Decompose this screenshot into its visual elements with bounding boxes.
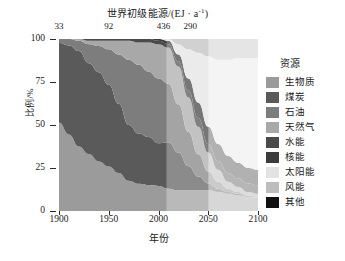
x-tick-mark (258, 211, 259, 215)
top-annotation-value: 92 (89, 21, 129, 31)
legend-item[interactable]: 煤炭 (266, 90, 342, 105)
legend-item-label: 风能 (285, 182, 305, 193)
scenario-shade (166, 39, 208, 211)
y-tick-label: 50 (11, 119, 45, 129)
legend-swatch (266, 92, 279, 103)
legend-item[interactable]: 石油 (266, 105, 342, 120)
x-tick-label: 2100 (238, 214, 278, 224)
legend-item-label: 煤炭 (285, 92, 305, 103)
x-tick-label: 2050 (188, 214, 228, 224)
legend-swatch (266, 152, 279, 163)
figure: 世界初级能源/(EJ · a-1) 3392436290 比例/% 025507… (0, 0, 345, 261)
legend-item[interactable]: 核能 (266, 150, 342, 165)
legend-item[interactable]: 生物质 (266, 75, 342, 90)
y-tick-mark (50, 211, 56, 212)
legend-swatch (266, 167, 279, 178)
legend-swatch (266, 137, 279, 148)
y-tick-mark (50, 125, 56, 126)
legend-swatch (266, 182, 279, 193)
x-tick-mark (159, 211, 160, 215)
legend-item-label: 核能 (285, 152, 305, 163)
y-tick-label: 100 (11, 33, 45, 43)
stacked-area-svg (59, 39, 258, 211)
x-tick-label: 2000 (139, 214, 179, 224)
x-tick-mark (208, 211, 209, 215)
legend-item[interactable]: 其他 (266, 195, 342, 210)
y-tick-label: 75 (11, 76, 45, 86)
top-annotation-value: 290 (170, 21, 210, 31)
x-tick-mark (109, 211, 110, 215)
legend-item-label: 石油 (285, 107, 305, 118)
top-axis-title: 世界初级能源/(EJ · a-1) (55, 5, 260, 20)
legend-item-label: 其他 (285, 197, 305, 208)
y-tick-label: 25 (11, 162, 45, 172)
legend-swatch (266, 107, 279, 118)
scenario-shade (208, 39, 258, 211)
legend-item[interactable]: 天然气 (266, 120, 342, 135)
legend-swatch (266, 77, 279, 88)
y-tick-mark (50, 39, 56, 40)
legend-item[interactable]: 水能 (266, 135, 342, 150)
legend-items: 生物质煤炭石油天然气水能核能太阳能风能其他 (266, 75, 342, 210)
legend-swatch (266, 122, 279, 133)
x-tick-mark (59, 211, 60, 215)
legend-item-label: 水能 (285, 137, 305, 148)
x-tick-label: 1950 (89, 214, 129, 224)
legend-swatch (266, 197, 279, 208)
legend-item-label: 天然气 (285, 122, 315, 133)
legend: 资源 生物质煤炭石油天然气水能核能太阳能风能其他 (266, 55, 342, 210)
legend-item[interactable]: 太阳能 (266, 165, 342, 180)
legend-item[interactable]: 风能 (266, 180, 342, 195)
top-axis-title-text: 世界初级能源/(EJ · a-1) (107, 8, 208, 19)
x-axis-label: 年份 (59, 230, 258, 245)
plot-area (59, 39, 258, 211)
top-annotation-value: 33 (39, 21, 79, 31)
y-tick-mark (50, 168, 56, 169)
x-tick-label: 1900 (39, 214, 79, 224)
y-tick-mark (50, 82, 56, 83)
legend-item-label: 太阳能 (285, 167, 315, 178)
legend-item-label: 生物质 (285, 77, 315, 88)
legend-title: 资源 (280, 55, 342, 70)
